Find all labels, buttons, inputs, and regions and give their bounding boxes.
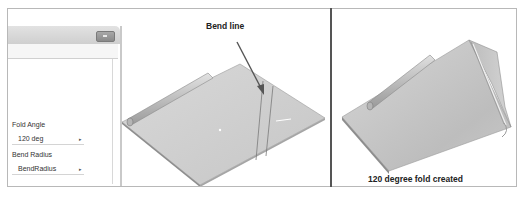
dialog-titlebar[interactable]	[8, 26, 120, 44]
fold-properties-dialog: Fold Angle 120 deg ▸ Bend Radius BendRad…	[8, 26, 122, 186]
fold-created-caption: 120 degree fold created	[368, 174, 463, 184]
fold-angle-label: Fold Angle	[12, 121, 45, 128]
dialog-tabstrip	[8, 44, 118, 59]
folded-sheet-illustration	[332, 9, 516, 186]
fold-angle-value: 120 deg	[18, 135, 43, 142]
bend-radius-field[interactable]: BendRadius ▸	[12, 163, 84, 175]
chevron-right-icon[interactable]: ▸	[79, 133, 82, 145]
fold-angle-field[interactable]: 120 deg ▸	[12, 133, 84, 145]
bend-radius-value: BendRadius	[18, 165, 56, 172]
close-button[interactable]	[96, 31, 115, 42]
right-panel-fold-result: 120 degree fold created	[332, 9, 516, 186]
left-panel-bend-setup: Bend line Fold Angle 120 deg ▸ Bend Radi…	[8, 9, 330, 186]
bend-line-callout: Bend line	[206, 21, 244, 31]
bend-radius-label: Bend Radius	[12, 151, 52, 158]
dialog-body: Fold Angle 120 deg ▸ Bend Radius BendRad…	[8, 59, 113, 184]
chevron-right-icon[interactable]: ▸	[79, 163, 82, 175]
